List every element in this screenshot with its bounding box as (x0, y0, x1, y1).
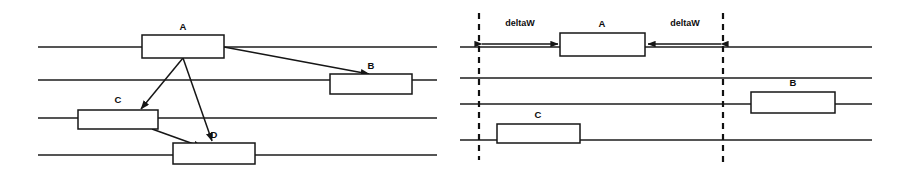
dependency-arrow-a-to-c (141, 58, 183, 109)
task-box-a[interactable] (560, 33, 645, 56)
left-panel: ABCD (38, 21, 437, 164)
task-box-c[interactable] (497, 124, 580, 143)
task-label-d: D (211, 129, 218, 140)
task-label-a: A (599, 18, 606, 29)
task-label-c: C (115, 94, 122, 105)
measure-label-2: deltaW (670, 18, 700, 28)
task-label-b: B (368, 60, 375, 71)
measure-label-1: deltaW (505, 18, 535, 28)
right-panel: deltaWdeltaWABC (460, 13, 872, 162)
dependency-arrow-a-to-b (224, 47, 369, 74)
task-label-b: B (790, 77, 797, 88)
task-box-b[interactable] (751, 92, 835, 113)
task-box-c[interactable] (78, 110, 158, 129)
figure-root: ABCD deltaWdeltaWABC (0, 0, 903, 174)
dependency-arrow-a-to-d (183, 58, 212, 141)
task-label-c: C (535, 109, 542, 120)
task-box-a[interactable] (142, 35, 224, 58)
task-label-a: A (180, 21, 187, 32)
task-box-b[interactable] (330, 74, 412, 94)
task-box-d[interactable] (173, 143, 255, 164)
diagram-canvas: ABCD deltaWdeltaWABC (0, 0, 903, 174)
